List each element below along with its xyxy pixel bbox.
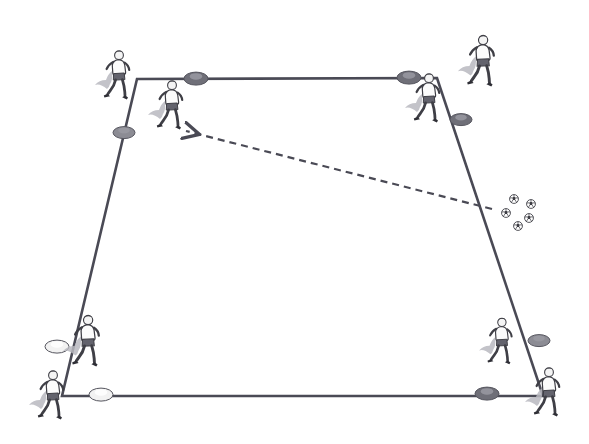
cone-top-right-in — [397, 71, 421, 84]
player-bottom-left-lower-figure — [38, 371, 63, 420]
player-bottom-right-upper-figure — [487, 318, 511, 364]
drill-scene — [0, 0, 589, 444]
diagram-canvas: Soccer Training Drill Diagram Trapezoid … — [0, 0, 589, 444]
cone-right-upper — [450, 114, 472, 126]
player-top-left-inside-figure — [157, 81, 182, 130]
player-bottom-left-lower-shadow — [29, 391, 46, 409]
player-top-left-inside-shadow — [148, 101, 165, 119]
player-top-right-outside-figure — [467, 35, 494, 86]
player-top-left-outside — [95, 51, 129, 100]
ball-1 — [510, 195, 519, 204]
grid-outline — [62, 78, 543, 396]
player-top-right-inside-shadow — [405, 94, 422, 112]
ball-layer — [502, 195, 536, 231]
ball-4 — [525, 214, 534, 223]
arrow-layer — [186, 131, 492, 209]
player-bottom-right-upper-shadow — [479, 337, 495, 354]
pass-arrow — [186, 131, 492, 209]
cone-bottom-left-in — [89, 388, 113, 401]
player-bottom-right-lower — [525, 368, 559, 417]
cone-left-upper — [113, 127, 135, 139]
player-top-right-outside-shadow — [458, 57, 476, 76]
player-bottom-right-lower-figure — [534, 368, 559, 417]
player-layer — [29, 35, 559, 419]
player-top-right-outside — [458, 35, 494, 86]
player-top-left-outside-figure — [104, 51, 129, 100]
cone-left-lower — [45, 340, 69, 353]
ball-2 — [527, 200, 536, 209]
cone-bottom-mid — [475, 387, 499, 400]
player-bottom-right-upper — [479, 318, 511, 364]
ball-5 — [514, 222, 523, 231]
cone-top-mid — [184, 72, 208, 85]
player-bottom-left-upper — [63, 315, 99, 366]
grid-layer — [62, 78, 543, 396]
player-top-left-inside — [148, 81, 182, 130]
player-bottom-left-lower — [29, 371, 63, 420]
player-top-left-outside-shadow — [95, 71, 112, 89]
cone-right-lower — [528, 335, 550, 347]
cone-layer — [45, 71, 550, 401]
ball-3 — [502, 209, 511, 218]
